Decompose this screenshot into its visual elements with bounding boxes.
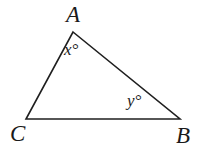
triangle-shape [0,0,201,154]
triangle-outline [26,32,180,119]
vertex-label-c: C [10,122,25,145]
angle-label-x: x° [64,41,78,58]
vertex-label-b: B [176,124,190,147]
triangle-figure: A C B x° y° [0,0,201,154]
vertex-label-a: A [66,3,80,26]
angle-label-y: y° [127,92,141,109]
